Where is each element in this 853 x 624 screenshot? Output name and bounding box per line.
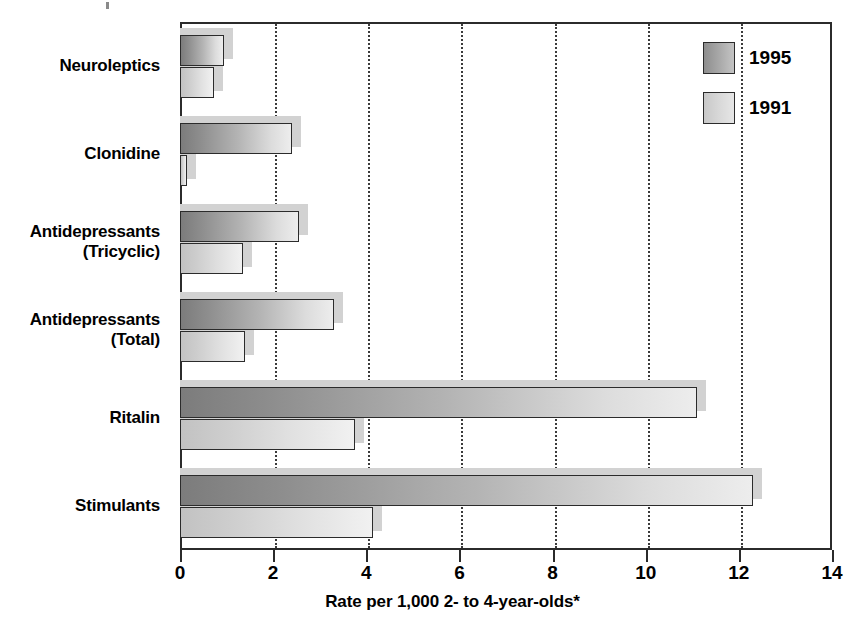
bar-group (180, 462, 832, 550)
x-axis-tick-label: 14 (821, 562, 842, 584)
legend-item[interactable]: 1991 (703, 92, 833, 124)
x-axis-tick-label: 4 (361, 562, 372, 584)
bar-1995 (180, 475, 753, 506)
category-label: Clonidine (84, 144, 160, 164)
bar-1995 (180, 211, 299, 242)
category-label: Stimulants (75, 496, 160, 516)
category-axis-labels: NeurolepticsClonidineAntidepressants (Tr… (0, 22, 170, 550)
bar-1991 (180, 419, 355, 450)
x-axis-tick-label: 0 (175, 562, 186, 584)
legend-swatch-icon (703, 92, 735, 124)
x-axis-tick (646, 550, 648, 562)
bar-1995 (180, 299, 334, 330)
bar-group-inner (180, 286, 832, 374)
bar-1991 (180, 331, 245, 362)
bar-group-inner (180, 198, 832, 286)
legend-swatch-icon (703, 42, 735, 74)
category-label: Antidepressants (Total) (30, 310, 160, 350)
bar-group (180, 286, 832, 374)
bar-1991 (180, 243, 243, 274)
legend: 19951991 (703, 42, 833, 142)
bar-group (180, 374, 832, 462)
x-axis-tick-label: 2 (268, 562, 279, 584)
x-axis-title-text: Rate per 1,000 2- to 4-year-olds* (325, 592, 580, 612)
x-axis-tick-labels: 02468101214 (0, 562, 853, 590)
image-speck (106, 2, 109, 9)
bar-1991 (180, 507, 373, 538)
x-axis-tick-label: 10 (635, 562, 656, 584)
x-axis-tick (273, 550, 275, 562)
bar-1995 (180, 35, 224, 66)
x-axis-tick-label: 6 (454, 562, 465, 584)
bar-group-inner (180, 462, 832, 550)
x-axis-tick (553, 550, 555, 562)
x-axis-tick (739, 550, 741, 562)
category-label: Antidepressants (Tricyclic) (30, 222, 160, 262)
x-axis-title: Rate per 1,000 2- to 4-year-olds* (0, 592, 853, 612)
category-label: Neuroleptics (59, 56, 160, 76)
x-axis-tick (832, 550, 834, 562)
x-axis-tick (459, 550, 461, 562)
bar-chart: NeurolepticsClonidineAntidepressants (Tr… (0, 0, 853, 624)
legend-item[interactable]: 1995 (703, 42, 833, 74)
x-axis-tick-label: 12 (728, 562, 749, 584)
legend-label: 1995 (749, 47, 791, 69)
bar-1995 (180, 387, 697, 418)
legend-label: 1991 (749, 97, 791, 119)
bar-1991 (180, 155, 187, 186)
bar-1991 (180, 67, 214, 98)
bar-1995 (180, 123, 292, 154)
category-label: Ritalin (109, 408, 160, 428)
x-axis-tick (180, 550, 182, 562)
bar-group-inner (180, 374, 832, 462)
x-axis-tick-label: 8 (547, 562, 558, 584)
bar-group (180, 198, 832, 286)
x-axis-tick (366, 550, 368, 562)
